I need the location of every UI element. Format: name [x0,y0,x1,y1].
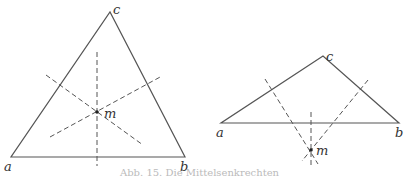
vertex-b-label: b [395,125,403,140]
diagram-canvas: a b c m a b c m Abb. 15. Die Mittelsenkr… [0,0,406,178]
figure-caption: Abb. 15. Die Mittelsenkrechten [119,167,280,178]
triangle-outline [11,12,185,157]
circumcenter-point [95,110,99,114]
vertex-c-label: c [113,2,121,17]
vertex-c-label: c [326,49,334,64]
center-m-label: m [316,143,328,158]
bisector-ac [46,75,143,145]
center-m-label: m [104,106,116,121]
obtuse-triangle: a b c m [216,49,403,166]
triangle-outline [221,56,399,123]
circumcenter-point [309,148,313,152]
vertex-a-label: a [4,159,12,174]
vertex-a-label: a [216,125,224,140]
acute-triangle: a b c m [4,2,188,174]
